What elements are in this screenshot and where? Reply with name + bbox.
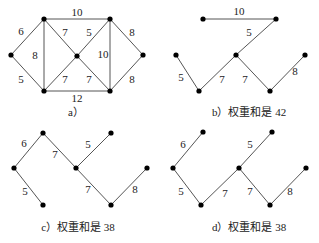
edge-weight-label: 7 — [62, 26, 68, 38]
edge-weight-label: 7 — [86, 73, 92, 85]
panel-b-spanning-tree-42: 1055778b）权重和是 42 — [173, 5, 307, 118]
edge-weight-label: 5 — [246, 26, 252, 38]
edge-weight-label: 10 — [234, 5, 246, 17]
graph-node — [108, 130, 113, 135]
panel-d-spanning-tree-38: 657578d）权重和是 38 — [170, 129, 308, 232]
edge-weight-label: 6 — [18, 25, 24, 37]
graph-edge — [76, 168, 111, 205]
panel-caption: a） — [68, 106, 84, 118]
graph-node — [40, 130, 45, 135]
panel-caption: b）权重和是 42 — [212, 105, 286, 118]
edge-weight-label: 7 — [219, 73, 225, 85]
edge-weight-label: 5 — [18, 73, 24, 85]
panel-caption: c）权重和是 38 — [41, 220, 115, 233]
graph-node — [267, 88, 272, 93]
edge-weight-label: 7 — [85, 183, 91, 195]
panel-c-spanning-tree-38: 657578c）权重和是 38 — [11, 130, 149, 232]
graph-edge — [77, 56, 110, 91]
graph-diagram: 658710712571088a） 1055778b）权重和是 42 65757… — [0, 0, 319, 243]
graph-edge — [270, 55, 305, 91]
graph-edge — [236, 55, 270, 91]
graph-edge — [43, 133, 76, 168]
edge-weight-label: 7 — [62, 73, 68, 85]
edge-weight-label: 10 — [98, 48, 110, 60]
graph-edge — [76, 133, 111, 168]
graph-node — [198, 202, 203, 207]
graph-node — [200, 16, 205, 21]
edge-weight-label: 8 — [132, 183, 138, 195]
graph-node — [107, 88, 112, 93]
graph-node — [173, 52, 178, 57]
edge-weight-label: 10 — [72, 6, 84, 18]
graph-edge — [236, 19, 276, 55]
graph-node — [302, 52, 307, 57]
edge-weight-label: 8 — [292, 65, 298, 77]
edge-weight-label: 7 — [247, 185, 253, 197]
edge-weight-label: 8 — [129, 26, 135, 38]
graph-node — [236, 165, 241, 170]
graph-edge — [201, 168, 239, 205]
graph-node — [267, 202, 272, 207]
graph-edge — [239, 132, 272, 168]
graph-node — [41, 88, 46, 93]
edge-weight-label: 12 — [72, 92, 83, 104]
graph-node — [41, 16, 46, 21]
graph-edge — [110, 55, 143, 91]
graph-node — [196, 88, 201, 93]
graph-edge — [173, 132, 203, 168]
panel-a-full-graph: 658710712571088a） — [8, 6, 145, 118]
graph-node — [11, 165, 16, 170]
edge-weight-label: 8 — [287, 185, 293, 197]
edge-weight-label: 6 — [21, 137, 27, 149]
graph-node — [73, 165, 78, 170]
graph-edge — [111, 168, 147, 205]
edge-weight-label: 7 — [52, 148, 58, 160]
graph-edge — [14, 133, 43, 168]
graph-node — [144, 165, 149, 170]
graph-node — [233, 52, 238, 57]
graph-node — [108, 202, 113, 207]
edge-weight-label: 6 — [180, 138, 186, 150]
graph-node — [40, 202, 45, 207]
graph-node — [8, 52, 13, 57]
graph-node — [303, 165, 308, 170]
graph-node — [107, 16, 112, 21]
graph-node — [140, 52, 145, 57]
panel-caption: d）权重和是 38 — [212, 220, 287, 233]
edge-weight-label: 5 — [247, 138, 253, 150]
graph-edge — [239, 168, 270, 205]
graph-node — [273, 16, 278, 21]
graph-edge — [44, 56, 77, 91]
graph-node — [74, 53, 79, 58]
edge-weight-label: 5 — [86, 26, 92, 38]
edge-weight-label: 8 — [32, 49, 38, 61]
edge-weight-label: 5 — [85, 138, 91, 150]
graph-node — [269, 129, 274, 134]
graph-edge — [173, 168, 201, 205]
edge-weight-label: 7 — [242, 73, 248, 85]
graph-edge — [199, 55, 236, 91]
edge-weight-label: 7 — [222, 187, 228, 199]
graph-node — [200, 129, 205, 134]
edge-weight-label: 5 — [22, 185, 28, 197]
graph-edge — [11, 19, 44, 55]
graph-node — [170, 165, 175, 170]
graph-edge — [14, 168, 43, 205]
edge-weight-label: 8 — [129, 73, 135, 85]
graph-edge — [11, 55, 44, 91]
edge-weight-label: 5 — [178, 71, 184, 83]
graph-edge — [110, 19, 143, 55]
graph-edge — [44, 19, 77, 56]
edge-weight-label: 5 — [178, 185, 184, 197]
